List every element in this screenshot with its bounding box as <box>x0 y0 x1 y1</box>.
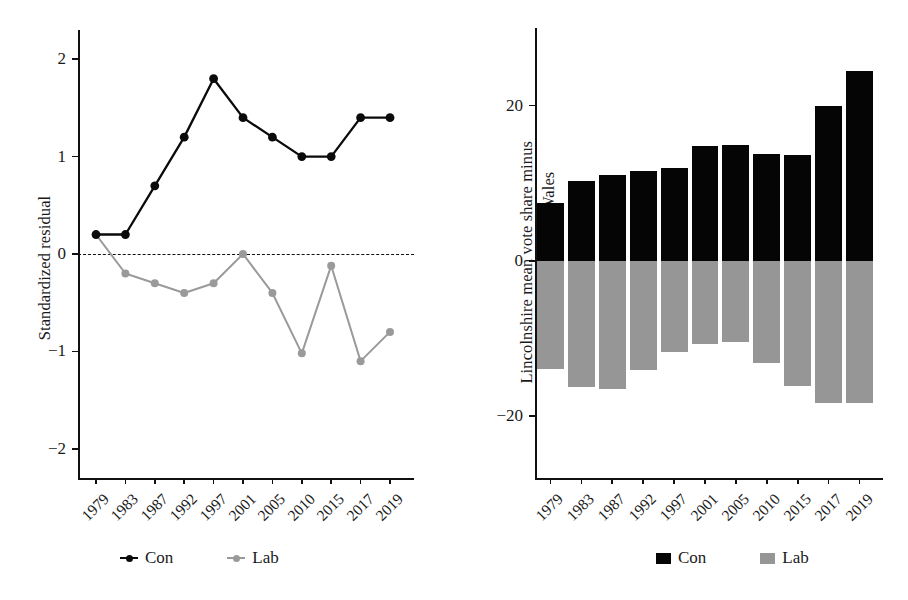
bar-con[interactable] <box>722 145 749 261</box>
legend-item-con: Con <box>656 548 706 568</box>
right-legend: ConLab <box>656 548 809 568</box>
bar-con[interactable] <box>661 168 688 261</box>
bar-lab[interactable] <box>753 261 780 363</box>
right-x-tick <box>766 478 768 484</box>
left-legend: ConLab <box>120 548 279 568</box>
left-data-point[interactable] <box>356 113 365 122</box>
left-data-point[interactable] <box>121 230 130 239</box>
left-data-point[interactable] <box>209 74 218 83</box>
left-y-tick-label: −1 <box>30 341 66 361</box>
bar-con[interactable] <box>568 181 595 261</box>
right-y-tick <box>529 415 535 417</box>
right-y-tick <box>529 260 535 262</box>
bar-con[interactable] <box>692 146 719 261</box>
panel-left-line-chart: Standardized residual 210−1−219791983198… <box>0 0 460 600</box>
right-x-tick <box>797 478 799 484</box>
legend-item-lab: Lab <box>760 548 808 568</box>
bar-con[interactable] <box>599 175 626 260</box>
right-x-tick <box>550 478 552 484</box>
legend-item-con: Con <box>120 548 173 568</box>
bar-con[interactable] <box>537 203 564 261</box>
bar-lab[interactable] <box>722 261 749 342</box>
left-data-point[interactable] <box>298 349 306 357</box>
left-data-point[interactable] <box>297 152 306 161</box>
right-y-tick-label: −20 <box>477 406 523 426</box>
left-y-tick-label: −2 <box>30 439 66 459</box>
bar-lab[interactable] <box>568 261 595 387</box>
right-y-tick <box>529 105 535 107</box>
left-data-point[interactable] <box>357 357 365 365</box>
bar-lab[interactable] <box>815 261 842 403</box>
left-data-point[interactable] <box>210 279 218 287</box>
left-data-point[interactable] <box>150 181 159 190</box>
right-x-axis <box>535 478 883 480</box>
left-series-layer <box>78 30 418 488</box>
left-plot-area: 210−1−2197919831987199219972001200520102… <box>78 30 408 478</box>
bar-con[interactable] <box>846 71 873 261</box>
legend-label-con: Con <box>145 548 173 568</box>
left-data-point[interactable] <box>386 328 394 336</box>
left-series-line-con <box>96 79 390 235</box>
bar-lab[interactable] <box>599 261 626 389</box>
right-y-tick-label: 0 <box>477 251 523 271</box>
left-data-point[interactable] <box>92 230 101 239</box>
right-x-tick <box>735 478 737 484</box>
bar-lab[interactable] <box>661 261 688 352</box>
left-data-point[interactable] <box>180 133 189 142</box>
right-x-tick <box>611 478 613 484</box>
left-data-point[interactable] <box>268 133 277 142</box>
right-plot-area: 200−201979198319871992199720012005201020… <box>535 28 875 478</box>
bar-lab[interactable] <box>537 261 564 370</box>
left-y-axis-title: Standardized residual <box>35 128 55 408</box>
left-data-point[interactable] <box>239 250 247 258</box>
bar-con[interactable] <box>630 171 657 261</box>
bar-lab[interactable] <box>784 261 811 387</box>
right-x-tick <box>673 478 675 484</box>
right-x-tick <box>581 478 583 484</box>
legend-swatch-lab <box>760 553 775 564</box>
left-data-point[interactable] <box>386 113 395 122</box>
bar-con[interactable] <box>784 155 811 261</box>
legend-item-lab: Lab <box>227 548 278 568</box>
left-data-point[interactable] <box>121 269 129 277</box>
right-x-tick <box>704 478 706 484</box>
figure-root: Standardized residual 210−1−219791983198… <box>0 0 908 600</box>
left-data-point[interactable] <box>327 152 336 161</box>
legend-label-lab: Lab <box>252 548 278 568</box>
bar-lab[interactable] <box>630 261 657 370</box>
bar-con[interactable] <box>815 106 842 261</box>
right-y-tick-label: 20 <box>477 96 523 116</box>
bar-lab[interactable] <box>846 261 873 403</box>
legend-label-lab: Lab <box>782 548 808 568</box>
left-y-tick-label: 2 <box>30 49 66 69</box>
left-data-point[interactable] <box>151 279 159 287</box>
left-data-point[interactable] <box>268 289 276 297</box>
left-data-point[interactable] <box>180 289 188 297</box>
bar-lab[interactable] <box>692 261 719 344</box>
right-x-tick <box>828 478 830 484</box>
right-x-tick <box>642 478 644 484</box>
left-y-tick-label: 0 <box>30 244 66 264</box>
legend-swatch-con <box>656 553 671 564</box>
right-x-tick <box>859 478 861 484</box>
bar-con[interactable] <box>753 154 780 261</box>
left-data-point[interactable] <box>327 262 335 270</box>
left-y-tick-label: 1 <box>30 147 66 167</box>
panel-right-bar-chart: Lincolnshire mean vote share minus mean … <box>460 0 908 600</box>
left-data-point[interactable] <box>239 113 248 122</box>
legend-label-con: Con <box>678 548 706 568</box>
